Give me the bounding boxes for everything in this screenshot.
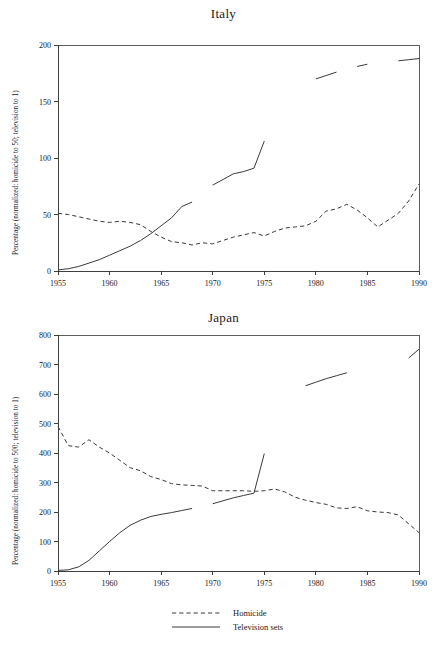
series-television-sets — [409, 349, 419, 358]
series-television-sets — [213, 141, 265, 185]
y-tick-label: 800 — [39, 331, 51, 340]
legend: Homicide Television sets — [0, 600, 447, 649]
y-tick-label: 0 — [47, 267, 51, 276]
axis-frame — [58, 335, 419, 571]
series-television-sets — [213, 454, 265, 504]
x-tick-label: 1980 — [308, 279, 324, 288]
y-tick-label: 300 — [39, 479, 51, 488]
legend-swatch-dashed — [172, 608, 220, 618]
x-tick-label: 1990 — [411, 579, 427, 588]
legend-swatch-solid — [172, 622, 220, 632]
chart-panel-japan: Japan Percentage (normalized: homicide t… — [0, 300, 447, 600]
x-tick-label: 1975 — [256, 579, 272, 588]
axis-frame-top-right — [58, 45, 419, 271]
plot-area-japan: 0100200300400500600700800195519601965197… — [0, 300, 447, 600]
x-tick-label: 1980 — [308, 579, 324, 588]
series-television-sets — [58, 202, 192, 270]
y-axis-label-italy: Percentage (normalized: homicide to 50; … — [12, 90, 20, 255]
axis-frame — [58, 45, 419, 271]
y-tick-label: 200 — [39, 41, 51, 50]
x-tick-label: 1955 — [50, 279, 66, 288]
figure-root: Italy Percentage (normalized: homicide t… — [0, 0, 447, 649]
x-tick-label: 1970 — [205, 579, 221, 588]
legend-label-homicide: Homicide — [233, 608, 267, 618]
y-tick-label: 50 — [43, 211, 51, 220]
chart-panel-italy: Italy Percentage (normalized: homicide t… — [0, 0, 447, 300]
x-tick-label: 1955 — [50, 579, 66, 588]
y-tick-label: 150 — [39, 98, 51, 107]
y-tick-label: 100 — [39, 538, 51, 547]
x-tick-label: 1965 — [153, 279, 169, 288]
y-axis-label-japan: Percentage (normalized: homicide to 500;… — [12, 397, 20, 565]
x-tick-label: 1985 — [359, 579, 375, 588]
series-television-sets — [316, 72, 337, 79]
x-tick-label: 1985 — [359, 279, 375, 288]
x-tick-label: 1960 — [102, 579, 118, 588]
series-homicide — [58, 184, 419, 245]
series-homicide — [58, 426, 419, 532]
x-tick-label: 1965 — [153, 579, 169, 588]
y-tick-label: 200 — [39, 508, 51, 517]
y-tick-label: 0 — [47, 567, 51, 576]
x-tick-label: 1970 — [205, 279, 221, 288]
x-tick-label: 1990 — [411, 279, 427, 288]
y-tick-label: 100 — [39, 154, 51, 163]
series-television-sets — [357, 64, 367, 66]
y-tick-label: 500 — [39, 420, 51, 429]
y-tick-label: 400 — [39, 449, 51, 458]
y-tick-label: 600 — [39, 390, 51, 399]
plot-area-italy: 0501001502001955196019651970197519801985… — [0, 0, 447, 300]
series-television-sets — [306, 373, 347, 386]
page-title-japan: Japan — [0, 310, 447, 326]
x-tick-label: 1960 — [102, 279, 118, 288]
page-title-italy: Italy — [0, 6, 447, 22]
y-tick-label: 700 — [39, 361, 51, 370]
axis-frame-top-right — [58, 335, 419, 571]
x-tick-label: 1975 — [256, 279, 272, 288]
legend-label-television-sets: Television sets — [233, 622, 283, 632]
series-television-sets — [58, 508, 192, 570]
series-television-sets — [398, 59, 419, 61]
